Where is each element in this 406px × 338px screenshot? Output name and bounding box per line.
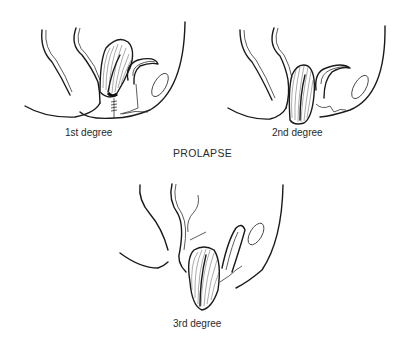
label-third-degree: 3rd degree xyxy=(173,318,221,329)
label-first-degree: 1st degree xyxy=(65,127,112,138)
figure-title: PROLAPSE xyxy=(173,147,232,159)
diagram-illustration xyxy=(0,0,406,338)
panel-second-degree xyxy=(228,26,385,124)
panel-first-degree xyxy=(25,22,185,118)
label-second-degree: 2nd degree xyxy=(272,127,323,138)
panel-third-degree xyxy=(120,184,283,310)
